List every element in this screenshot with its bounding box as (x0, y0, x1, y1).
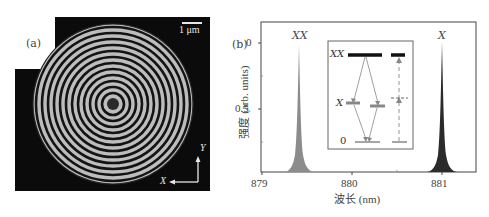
inset-label-0: 0 (340, 135, 346, 146)
microscopy-image: 1 μm Y X (15, 17, 210, 191)
x-tick-880: 880 (341, 177, 358, 189)
concentric-rings (33, 24, 193, 184)
spectrum-plot: (b) 0 0.5 879 880 881 波长 (nm) 强度 (arb. u… (230, 0, 489, 217)
scale-bar-label: 1 μm (179, 24, 200, 35)
inset-label-xx: XX (330, 48, 344, 59)
y-axis-title: 强度 (arb. units) (235, 47, 251, 157)
x-tick-881: 881 (431, 177, 448, 189)
peak-label-x: X (438, 29, 446, 42)
axis-y-label: Y (200, 142, 206, 153)
axis-x-label: X (160, 175, 166, 186)
peak-label-xx: XX (292, 29, 308, 42)
x-axis-title: 波长 (nm) (334, 190, 380, 206)
x-tick-879: 879 (251, 177, 268, 189)
inset-label-x: X (336, 97, 343, 108)
